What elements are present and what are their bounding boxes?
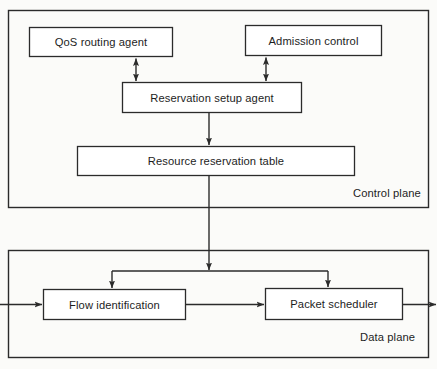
qos-routing-agent-box[interactable] [30,28,173,57]
control-plane-label: Control plane [353,187,421,199]
packet-scheduler-box[interactable] [266,289,403,320]
reservation-setup-agent-box[interactable] [123,83,302,113]
flow-identification-box[interactable] [44,290,186,320]
data-plane-label: Data plane [360,331,415,343]
admission-control-box[interactable] [246,26,382,56]
resource-reservation-table-box[interactable] [78,147,355,176]
diagram-vector-layer [0,0,437,369]
diagram-canvas: QoS routing agent Admission control Rese… [0,0,437,369]
